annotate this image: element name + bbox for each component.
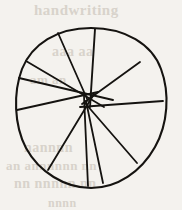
chord-layer: [17, 29, 163, 186]
divided-circle-figure: [0, 0, 182, 210]
chord-right-mid: [80, 101, 163, 107]
chord-left-mid: [19, 78, 113, 100]
circle-outline: [16, 28, 167, 188]
figure-container: handwriting aaa aa am an nannnn an annnn…: [0, 0, 182, 210]
